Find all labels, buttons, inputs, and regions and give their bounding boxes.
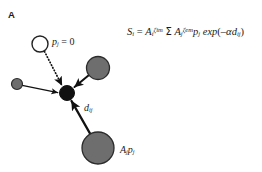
node-source-upper-right (87, 57, 110, 80)
arrow-smallleft-to-focal (22, 85, 58, 92)
label-pj-equals: = 0 (61, 36, 74, 47)
formula-s-sub: i (132, 30, 134, 37)
label-d-sub: ij (89, 106, 93, 113)
node-source-small-left (12, 79, 23, 90)
node-focal-patch (60, 86, 75, 101)
figure-panel-a: A (0, 0, 262, 172)
label-empty-patch: pj = 0 (52, 37, 74, 48)
formula-pj-sub: j (198, 30, 200, 37)
label-pj2-sub: j (133, 148, 135, 155)
formula-aj-sup: ζem (183, 26, 193, 33)
formula-ai-sup: ζim (154, 26, 163, 33)
formula-sum-symbol: Σ (165, 26, 171, 37)
model-formula: Si = Aiζim Σ Ajζempj exp(–αdij) (127, 27, 244, 38)
formula-equals: = (137, 26, 143, 37)
node-empty-patch (32, 36, 48, 52)
node-source-bottom (82, 132, 114, 164)
arrow-upperright-to-focal (75, 75, 90, 87)
label-distance: dij (84, 103, 93, 114)
formula-paren-close: ) (241, 26, 245, 37)
label-source-strength: Ajpj (120, 145, 135, 156)
label-pj-sub: j (57, 40, 59, 47)
formula-exp: exp (203, 26, 218, 37)
arrow-empty-to-focal (45, 52, 63, 86)
